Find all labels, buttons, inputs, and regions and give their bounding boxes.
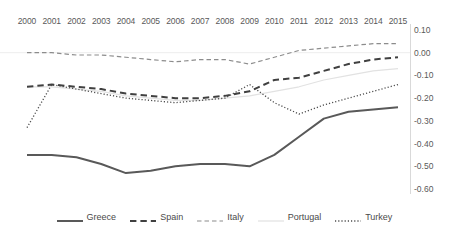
series-canvas [0,24,412,194]
y-tick--0-50: -0.50 [414,161,433,171]
legend-label-italy: Italy [227,212,244,222]
line-chart: 2000200120022003200420052006200720082009… [0,0,449,240]
legend-label-greece: Greece [87,212,117,222]
legend-item-turkey[interactable]: Turkey [335,212,392,222]
series-line-italy [27,44,398,64]
legend-swatch-turkey-icon [335,212,361,222]
y-tick-0-10: 0.10 [414,25,431,35]
legend-swatch-italy-icon [197,212,223,222]
series-line-turkey [27,85,398,128]
y-tick--0-10: -0.10 [414,70,433,80]
series-line-portugal [27,69,398,101]
legend-item-portugal[interactable]: Portugal [258,212,322,222]
legend-item-spain[interactable]: Spain [130,212,183,222]
chart-legend: GreeceSpainItalyPortugalTurkey [0,207,449,227]
y-axis-line [410,24,411,194]
y-tick--0-20: -0.20 [414,93,433,103]
legend-label-spain: Spain [160,212,183,222]
legend-label-portugal: Portugal [288,212,322,222]
plot-area [0,24,412,194]
y-tick-0-00: 0.00 [414,48,431,58]
series-line-spain [27,57,398,98]
legend-swatch-spain-icon [130,212,156,222]
y-tick--0-30: -0.30 [414,116,433,126]
series-line-greece [27,107,398,173]
y-axis-tick-labels: 0.100.00-0.10-0.20-0.30-0.40-0.50-0.60 [414,0,449,240]
legend-label-turkey: Turkey [365,212,392,222]
legend-item-greece[interactable]: Greece [57,212,117,222]
legend-swatch-greece-icon [57,212,83,222]
legend-swatch-portugal-icon [258,212,284,222]
legend-item-italy[interactable]: Italy [197,212,244,222]
y-tick--0-60: -0.60 [414,184,433,194]
y-tick--0-40: -0.40 [414,139,433,149]
